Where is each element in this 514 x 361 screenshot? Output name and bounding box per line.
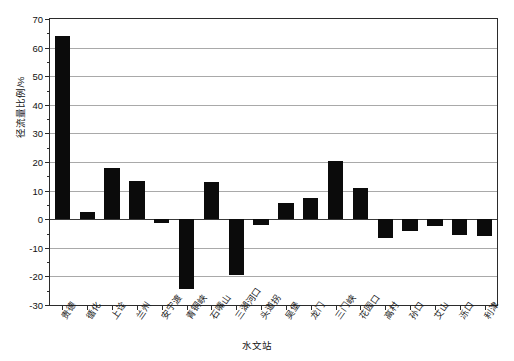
bar xyxy=(378,219,393,238)
bar xyxy=(154,219,169,223)
bar-series xyxy=(50,19,497,305)
bar xyxy=(303,198,318,219)
y-axis-tick xyxy=(45,305,50,306)
bar xyxy=(129,181,144,220)
bar xyxy=(278,203,293,219)
chart-figure: 径流量比例/% 706050403020100-10-20-30 贵德循化上诠兰… xyxy=(0,0,514,361)
bar xyxy=(229,219,244,275)
y-axis-tick-label: 50 xyxy=(32,71,43,82)
bar xyxy=(204,182,219,219)
bar xyxy=(104,168,119,219)
y-axis-tick-label: 10 xyxy=(32,185,43,196)
bar xyxy=(179,219,194,289)
y-axis-tick-label: 70 xyxy=(32,14,43,25)
x-axis-title: 水文站 xyxy=(0,338,514,352)
y-axis-tick-label: -10 xyxy=(29,242,43,253)
bar xyxy=(328,161,343,220)
bar xyxy=(452,219,467,235)
plot-area: 706050403020100-10-20-30 xyxy=(49,18,498,306)
bar xyxy=(253,219,268,225)
y-axis-tick-label: 20 xyxy=(32,157,43,168)
y-axis-tick-label: -20 xyxy=(29,271,43,282)
y-axis-tick-label: -30 xyxy=(29,300,43,311)
bar xyxy=(427,219,442,226)
bar xyxy=(477,219,492,236)
bar xyxy=(55,36,70,219)
y-axis-title: 径流量比例/% xyxy=(13,47,27,167)
y-axis-tick-label: 30 xyxy=(32,128,43,139)
bar xyxy=(402,219,417,230)
y-axis-tick-label: 0 xyxy=(38,214,43,225)
y-axis-tick-label: 40 xyxy=(32,99,43,110)
y-axis-tick-label: 60 xyxy=(32,42,43,53)
bar xyxy=(80,212,95,219)
bar xyxy=(353,188,368,219)
